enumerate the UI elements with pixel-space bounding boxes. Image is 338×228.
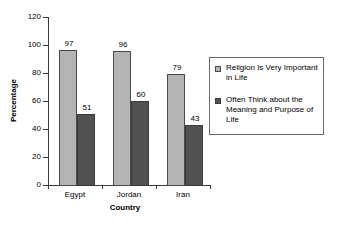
- bar-value-iran-series1: 43: [182, 114, 208, 123]
- bar-iran-religion-important: [167, 74, 185, 186]
- y-tick-label-6-wrap: 120: [13, 13, 41, 21]
- y-tick-label-5: 100: [15, 41, 41, 49]
- x-axis-label-jordan: Jordan: [102, 190, 156, 199]
- y-tick-label-6: 120: [15, 13, 41, 21]
- bar-value-egypt-series0: 97: [56, 39, 82, 48]
- y-tick-label-3: 60: [15, 97, 41, 105]
- y-axis-line: [48, 17, 49, 186]
- y-tick-label-0: 0: [15, 181, 41, 189]
- bar-value-jordan-series1: 60: [128, 90, 154, 99]
- bar-value-jordan-series0: 96: [110, 40, 136, 49]
- x-tick-end: [210, 185, 211, 189]
- y-tick-label-0-wrap: 0: [13, 181, 41, 189]
- x-tick-2: [156, 185, 157, 189]
- y-tick-2: [43, 129, 48, 130]
- chart-legend: Religion Is Very Important in Life Often…: [209, 57, 324, 135]
- bar-value-egypt-series1: 51: [74, 103, 100, 112]
- y-tick-6: [43, 17, 48, 18]
- bar-egypt-religion-important: [59, 50, 77, 186]
- y-tick-label-5-wrap: 100: [13, 41, 41, 49]
- y-tick-label-1-wrap: 20: [13, 153, 41, 161]
- x-axis-title: Country: [40, 203, 210, 212]
- legend-swatch-icon-series0: [215, 66, 221, 72]
- legend-label-series1: Often Think about the Meaning and Purpos…: [226, 95, 322, 125]
- y-tick-label-2-wrap: 40: [13, 125, 41, 133]
- x-tick-1: [102, 185, 103, 189]
- legend-swatch-icon-series1: [215, 98, 221, 104]
- y-tick-label-3-wrap: 60: [13, 97, 41, 105]
- y-tick-label-2: 40: [15, 125, 41, 133]
- y-tick-4: [43, 73, 48, 74]
- legend-label-series0: Religion Is Very Important in Life: [226, 63, 322, 83]
- y-tick-label-4-wrap: 80: [13, 69, 41, 77]
- x-tick-start: [48, 185, 49, 189]
- bar-jordan-meaning-purpose: [131, 101, 149, 186]
- y-tick-label-4: 80: [15, 69, 41, 77]
- y-tick-label-1: 20: [15, 153, 41, 161]
- bar-jordan-religion-important: [113, 51, 131, 186]
- y-tick-1: [43, 157, 48, 158]
- bar-egypt-meaning-purpose: [77, 114, 95, 186]
- x-axis-label-iran: Iran: [156, 190, 210, 199]
- y-tick-3: [43, 101, 48, 102]
- y-tick-5: [43, 45, 48, 46]
- bar-iran-meaning-purpose: [185, 125, 203, 186]
- bar-value-iran-series0: 79: [164, 63, 190, 72]
- x-axis-label-egypt: Egypt: [48, 190, 102, 199]
- bar-chart: Percentage 0 20 40 60 80 100 120 97 51 9…: [0, 0, 338, 228]
